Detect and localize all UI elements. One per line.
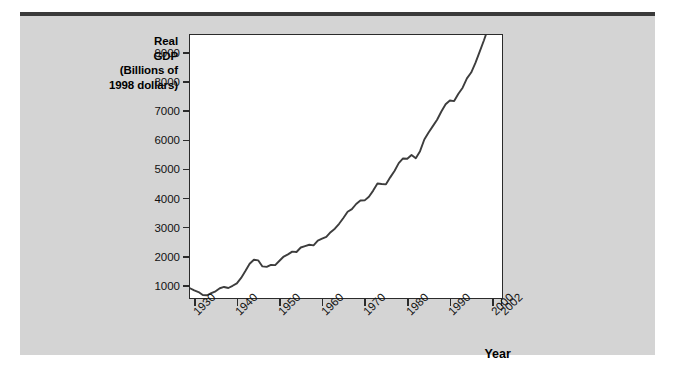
y-axis-tick-label: 6000 — [154, 134, 180, 146]
x-axis-title: Year — [484, 347, 510, 361]
gdp-line-path — [190, 35, 492, 295]
plot-area — [189, 34, 503, 299]
y-axis-tick-label: 9000 — [154, 47, 180, 59]
y-axis-tick-label: 2000 — [154, 251, 180, 263]
y-axis-tick-label: 7000 — [154, 105, 180, 117]
y-axis-tick-label: 8000 — [154, 76, 180, 88]
y-axis-tick-label: 5000 — [154, 163, 180, 175]
figure-panel: Real GDP (Billions of 1998 dollars) 1000… — [20, 12, 655, 355]
y-axis-tick-label: 4000 — [154, 193, 180, 205]
y-axis-tick-label: 1000 — [154, 280, 180, 292]
y-axis-tick-label: 3000 — [154, 222, 180, 234]
gdp-line-chart — [190, 35, 501, 297]
